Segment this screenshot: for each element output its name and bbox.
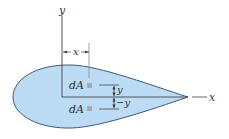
- area-shape: [13, 65, 188, 128]
- x-dimension-left-arrowhead: [63, 51, 67, 54]
- upper-y-dimension-label: y: [116, 84, 123, 95]
- teardrop-area-diagram: y x x dA dA y −y: [0, 0, 229, 139]
- upper-dA-marker: [87, 83, 92, 88]
- x-dimension-label: x: [73, 46, 79, 57]
- x-dimension-right-arrowhead: [85, 51, 89, 54]
- lower-dA-label: dA: [69, 103, 84, 116]
- x-axis-label: x: [209, 91, 216, 104]
- lower-dA-marker: [87, 106, 92, 111]
- y-axis-label: y: [58, 4, 66, 17]
- upper-dA-label: dA: [69, 79, 84, 92]
- lower-y-dimension-label: −y: [116, 97, 130, 108]
